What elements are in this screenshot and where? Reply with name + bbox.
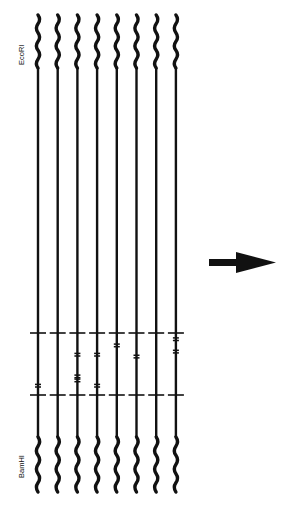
ecori-label: EcoRI	[17, 45, 26, 65]
bamhi-end-wave	[155, 437, 158, 492]
bamhi-label: BamHI	[17, 455, 26, 478]
strand-1	[30, 15, 46, 492]
strand-4	[89, 15, 105, 492]
ecori-end-wave	[36, 15, 39, 68]
ecori-end-wave	[96, 15, 99, 68]
bamhi-end-wave	[174, 437, 177, 492]
strand-2	[50, 15, 66, 492]
ecori-end-wave	[56, 15, 59, 68]
strand-3	[69, 15, 85, 492]
ecori-end-wave	[174, 15, 177, 68]
ecori-end-wave	[115, 15, 118, 68]
bamhi-end-wave	[76, 437, 79, 492]
ecori-end-wave	[155, 15, 158, 68]
strand-diagram: EcoRI BamHI	[0, 0, 295, 523]
strand-7	[148, 15, 164, 492]
bamhi-end-wave	[115, 437, 118, 492]
strand-5	[109, 15, 125, 492]
strand-6	[129, 15, 145, 492]
ecori-end-wave	[135, 15, 138, 68]
dna-strands	[30, 15, 184, 492]
bamhi-end-wave	[96, 437, 99, 492]
bamhi-end-wave	[135, 437, 138, 492]
bamhi-end-wave	[56, 437, 59, 492]
strand-8	[168, 15, 184, 492]
bamhi-end-wave	[36, 437, 39, 492]
ecori-end-wave	[76, 15, 79, 68]
right-arrow-icon	[209, 252, 276, 273]
